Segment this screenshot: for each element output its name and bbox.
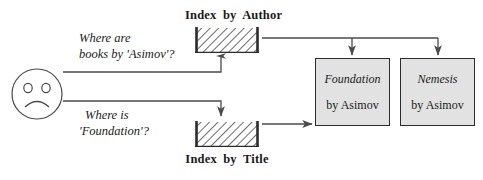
index-by-title-box	[195, 121, 259, 147]
book-nemesis-title: Nemesis	[401, 72, 474, 87]
library-index-diagram: Index by Author Index by Title Where are…	[0, 0, 483, 180]
index-by-author-label: Index by Author	[185, 8, 269, 23]
query-author-line2: books by 'Asimov'?	[79, 47, 175, 62]
query-title-line2: 'Foundation'?	[79, 124, 149, 139]
book-nemesis-box: Nemesis by Asimov	[400, 58, 475, 126]
book-foundation-box: Foundation by Asimov	[315, 58, 390, 126]
connector-author-to-books	[262, 38, 438, 55]
book-foundation-title: Foundation	[316, 72, 389, 87]
sad-face-icon	[12, 69, 62, 119]
book-foundation-author: by Asimov	[316, 98, 389, 113]
book-nemesis-author: by Asimov	[401, 98, 474, 113]
index-by-title-label: Index by Title	[185, 152, 269, 167]
query-title-line1: Where is	[85, 108, 129, 123]
index-by-author-box	[195, 27, 259, 53]
query-author-line1: Where are	[79, 31, 130, 46]
